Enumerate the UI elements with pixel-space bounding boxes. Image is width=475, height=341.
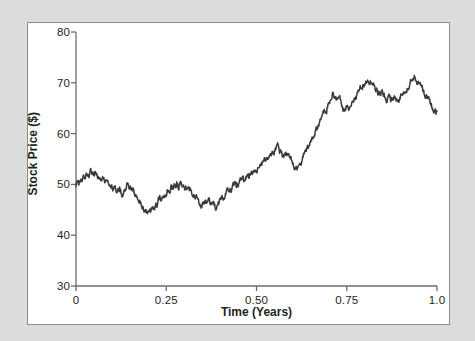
x-axis-title: Time (Years) xyxy=(76,305,437,319)
y-axis-title: Stock Price ($) xyxy=(26,112,40,195)
y-tick-label: 70 xyxy=(40,77,70,89)
chart-frame xyxy=(27,22,450,325)
y-tick-label: 60 xyxy=(40,128,70,140)
figure-page: 304050607080 00.250.500.751.0 Time (Year… xyxy=(0,0,475,341)
y-tick-label: 50 xyxy=(40,178,70,190)
y-tick-label: 30 xyxy=(40,280,70,292)
y-tick-label: 80 xyxy=(40,26,70,38)
y-tick-label: 40 xyxy=(40,229,70,241)
